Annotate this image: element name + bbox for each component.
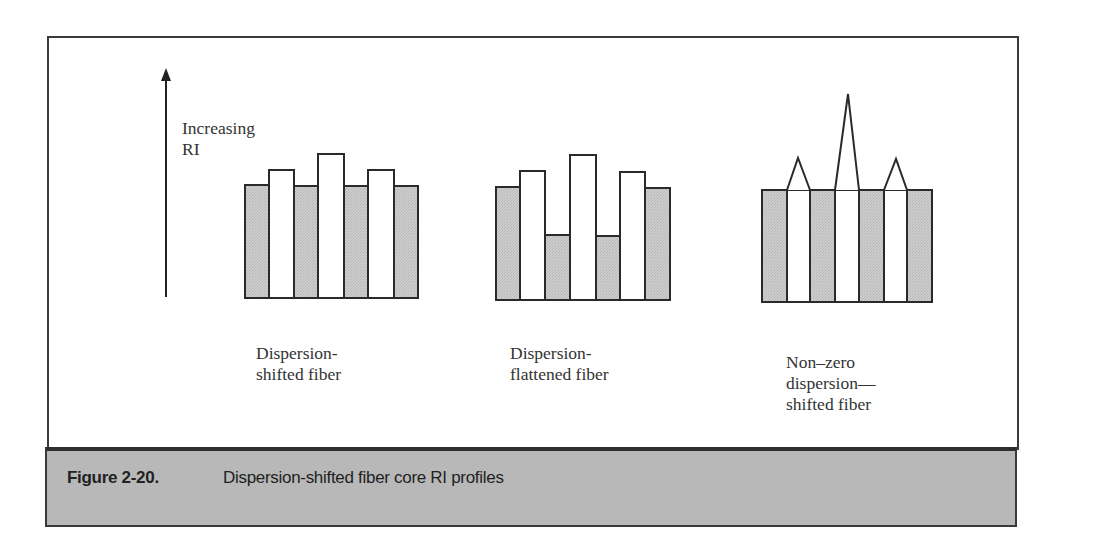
- label-line: Non–zero: [786, 352, 855, 372]
- profile-label-dispersion-shifted: Dispersion- shifted fiber: [256, 343, 341, 385]
- label-line: shifted fiber: [786, 394, 871, 414]
- label-line: Dispersion-: [510, 343, 592, 363]
- label-line: Dispersion-: [256, 343, 338, 363]
- label-line: dispersion—: [786, 373, 875, 393]
- axis-label: Increasing RI: [182, 118, 255, 160]
- up-arrow-icon: [161, 68, 171, 297]
- axis-label-line2: RI: [182, 139, 200, 159]
- caption-label: Figure 2-20.: [67, 468, 159, 488]
- profile-dispersion-flattened: [496, 155, 670, 300]
- figure-caption: Figure 2-20. Dispersion-shifted fiber co…: [45, 447, 1017, 527]
- profile-label-non-zero-dispersion-shifted: Non–zero dispersion— shifted fiber: [786, 352, 875, 415]
- profile-dispersion-shifted: [245, 154, 418, 298]
- label-line: shifted fiber: [256, 364, 341, 384]
- profile-non-zero-dispersion-shifted: [762, 94, 932, 302]
- profile-label-dispersion-flattened: Dispersion- flattened fiber: [510, 343, 609, 385]
- label-line: flattened fiber: [510, 364, 609, 384]
- caption-text: Dispersion-shifted fiber core RI profile…: [223, 468, 504, 488]
- axis-label-line1: Increasing: [182, 118, 255, 138]
